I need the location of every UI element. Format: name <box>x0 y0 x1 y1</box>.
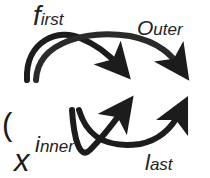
label-inner: inner <box>35 132 74 158</box>
left-open-paren: ( <box>2 107 12 143</box>
label-outer: Outer <box>137 16 183 40</box>
label-inner-rest: nner <box>40 137 74 156</box>
foil-expression: ( x + 2 ) ( 2 x − 3 ) <box>0 71 210 178</box>
left-var-x: x <box>14 143 30 178</box>
label-last-rest: ast <box>150 155 173 174</box>
label-outer-initial: O <box>137 16 153 39</box>
label-outer-rest: uter <box>153 20 182 39</box>
label-first-initial: f <box>33 0 41 31</box>
label-last: last <box>145 150 173 176</box>
label-first-rest: irst <box>41 10 64 29</box>
label-first: first <box>33 0 63 32</box>
